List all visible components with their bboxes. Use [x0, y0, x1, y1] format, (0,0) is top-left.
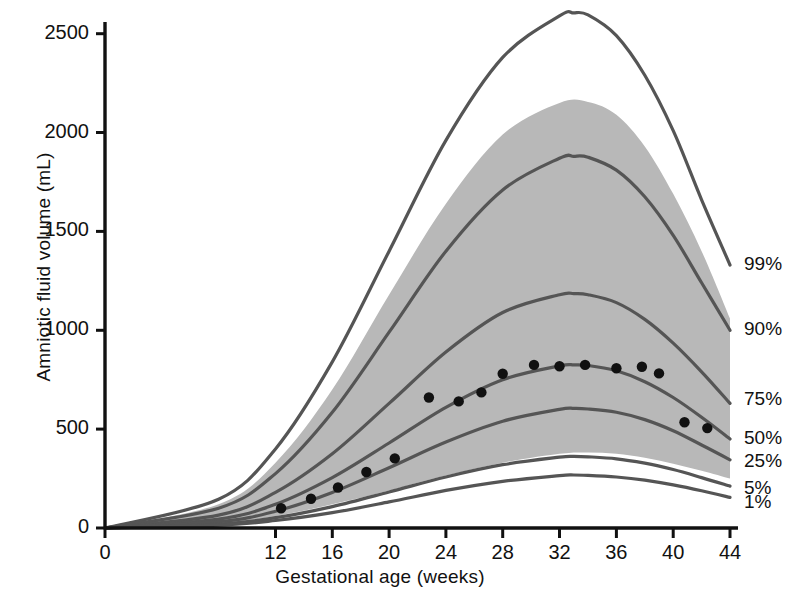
x-tick-label: 36: [586, 541, 646, 564]
y-tick-label: 0: [17, 515, 89, 538]
x-tick-label: 40: [643, 541, 703, 564]
y-tick-label: 1000: [17, 317, 89, 340]
percentile-label-99pct: 99%: [744, 253, 782, 275]
x-tick-label: 20: [359, 541, 419, 564]
data-point: [654, 368, 664, 378]
data-point: [498, 369, 508, 379]
x-axis-title: Gestational age (weeks): [0, 566, 760, 588]
data-point: [476, 387, 486, 397]
y-axis-title: Amniotic fluid volume (mL): [33, 137, 55, 397]
x-tick-label: 12: [245, 541, 305, 564]
percentile-label-90pct: 90%: [744, 318, 782, 340]
x-tick-label: 24: [416, 541, 476, 564]
data-point: [424, 392, 434, 402]
y-tick-label: 2500: [17, 21, 89, 44]
data-point: [361, 467, 371, 477]
data-point: [554, 361, 564, 371]
y-tick-label: 500: [17, 416, 89, 439]
data-point: [637, 362, 647, 372]
percentile-label-25pct: 25%: [744, 450, 782, 472]
data-point: [276, 503, 286, 513]
data-point: [529, 360, 539, 370]
percentile-label-75pct: 75%: [744, 388, 782, 410]
chart-plot-area: [0, 0, 792, 605]
data-point: [390, 453, 400, 463]
data-point: [702, 423, 712, 433]
y-tick-label: 1500: [17, 218, 89, 241]
x-tick-label: 32: [530, 541, 590, 564]
y-tick-label: 2000: [17, 120, 89, 143]
x-tick-label: 28: [473, 541, 533, 564]
data-point: [306, 494, 316, 504]
data-point: [333, 482, 343, 492]
percentile-label-50pct: 50%: [744, 427, 782, 449]
data-point: [679, 417, 689, 427]
data-point: [580, 360, 590, 370]
x-tick-label: 44: [700, 541, 760, 564]
data-point: [454, 396, 464, 406]
amniotic-fluid-volume-chart: Amniotic fluid volume (mL) Gestational a…: [0, 0, 792, 605]
x-tick-label: 0: [75, 541, 135, 564]
data-point: [611, 363, 621, 373]
percentile-label-1pct: 1%: [744, 491, 771, 513]
x-tick-label: 16: [302, 541, 362, 564]
